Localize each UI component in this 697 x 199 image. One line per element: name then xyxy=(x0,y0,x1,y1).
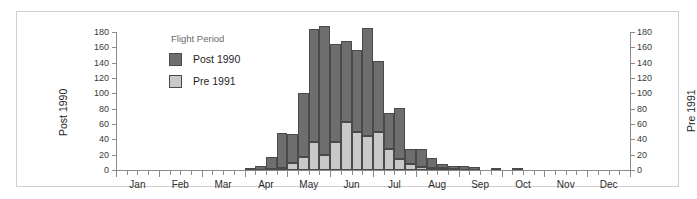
x-label-oct: Oct xyxy=(503,179,543,190)
x-label-aug: Aug xyxy=(417,179,457,190)
x-tick-34 xyxy=(480,171,481,175)
y-label-left-160: 160 xyxy=(81,43,109,52)
legend-label-pre-1991: Pre 1991 xyxy=(193,76,236,87)
x-tick-44 xyxy=(587,171,588,177)
x-tick-25 xyxy=(384,171,385,175)
bar-group xyxy=(245,168,256,170)
x-tick-15 xyxy=(277,171,278,175)
x-tick-32 xyxy=(459,171,460,177)
x-label-apr: Apr xyxy=(246,179,286,190)
bar-segment-post-1990 xyxy=(330,44,341,141)
bar-segment-pre-1991 xyxy=(330,142,341,170)
y-label-right-40: 40 xyxy=(637,135,665,144)
bar-segment-post-1990 xyxy=(352,50,363,131)
y-tick-right-180 xyxy=(631,32,635,33)
y-label-right-120: 120 xyxy=(637,74,665,83)
bar-segment-post-1990 xyxy=(469,167,480,170)
y-label-left-20: 20 xyxy=(81,151,109,160)
bar-group xyxy=(352,50,363,170)
bar-group xyxy=(266,157,277,170)
y-label-left-100: 100 xyxy=(81,89,109,98)
x-tick-7 xyxy=(191,171,192,175)
bar-segment-post-1990 xyxy=(394,108,405,159)
bar-group xyxy=(287,134,298,170)
bar-segment-pre-1991 xyxy=(319,155,330,170)
legend-item-post-1990: Post 1990 xyxy=(169,53,289,66)
y-tick-right-120 xyxy=(631,78,635,79)
bar-segment-post-1990 xyxy=(459,166,470,170)
x-tick-27 xyxy=(405,171,406,175)
x-tick-31 xyxy=(448,171,449,175)
x-tick-20 xyxy=(330,171,331,177)
bar-segment-pre-1991 xyxy=(277,168,288,170)
x-tick-4 xyxy=(159,171,160,177)
x-tick-48 xyxy=(630,171,631,177)
x-tick-28 xyxy=(416,171,417,177)
bar-group xyxy=(384,113,395,171)
bar-segment-post-1990 xyxy=(298,93,309,157)
legend-item-pre-1991: Pre 1991 xyxy=(169,75,289,88)
y-label-left-180: 180 xyxy=(81,28,109,37)
x-tick-2 xyxy=(137,171,138,175)
bar-segment-post-1990 xyxy=(427,158,438,168)
bar-segment-post-1990 xyxy=(287,134,298,163)
x-tick-36 xyxy=(502,171,503,177)
x-tick-38 xyxy=(523,171,524,175)
x-tick-16 xyxy=(287,171,288,177)
x-tick-11 xyxy=(234,171,235,175)
x-tick-30 xyxy=(437,171,438,175)
bar-group xyxy=(469,167,480,170)
x-tick-42 xyxy=(566,171,567,175)
x-tick-21 xyxy=(341,171,342,175)
bar-segment-post-1990 xyxy=(491,168,502,170)
bar-segment-post-1990 xyxy=(341,41,352,122)
y-tick-right-20 xyxy=(631,155,635,156)
legend-swatch-post-1990 xyxy=(169,53,182,66)
bar-segment-pre-1991 xyxy=(384,149,395,170)
y-label-right-180: 180 xyxy=(637,28,665,37)
bar-segment-pre-1991 xyxy=(427,168,438,170)
y-tick-right-60 xyxy=(631,124,635,125)
x-tick-26 xyxy=(394,171,395,175)
x-tick-46 xyxy=(609,171,610,175)
bar-group xyxy=(298,93,309,170)
bar-group xyxy=(512,168,523,170)
bar-group xyxy=(309,29,320,170)
right-axis-line xyxy=(630,32,631,171)
x-tick-39 xyxy=(534,171,535,175)
y-tick-right-40 xyxy=(631,139,635,140)
y-tick-right-80 xyxy=(631,109,635,110)
x-tick-14 xyxy=(266,171,267,175)
x-tick-29 xyxy=(427,171,428,175)
y-label-right-20: 20 xyxy=(637,151,665,160)
bar-segment-pre-1991 xyxy=(266,168,277,170)
x-tick-9 xyxy=(212,171,213,175)
y-tick-right-160 xyxy=(631,47,635,48)
y-tick-right-140 xyxy=(631,63,635,64)
bar-group xyxy=(319,26,330,170)
x-label-dec: Dec xyxy=(589,179,629,190)
y-label-left-0: 0 xyxy=(81,166,109,175)
x-tick-1 xyxy=(127,171,128,175)
x-tick-33 xyxy=(469,171,470,175)
y-label-left-60: 60 xyxy=(81,120,109,129)
bar-segment-pre-1991 xyxy=(362,136,373,171)
bar-group xyxy=(330,44,341,170)
bar-group xyxy=(394,108,405,170)
bar-segment-post-1990 xyxy=(319,26,330,155)
bar-segment-post-1990 xyxy=(255,166,266,170)
bar-segment-pre-1991 xyxy=(287,163,298,170)
bar-segment-post-1990 xyxy=(245,168,256,170)
x-label-nov: Nov xyxy=(546,179,586,190)
y-label-right-100: 100 xyxy=(637,89,665,98)
bar-segment-post-1990 xyxy=(362,28,373,135)
y-label-left-140: 140 xyxy=(81,59,109,68)
x-tick-24 xyxy=(373,171,374,177)
bar-segment-pre-1991 xyxy=(416,167,427,170)
x-tick-47 xyxy=(619,171,620,175)
y-label-right-60: 60 xyxy=(637,120,665,129)
x-tick-3 xyxy=(148,171,149,175)
x-tick-18 xyxy=(309,171,310,175)
bar-segment-pre-1991 xyxy=(405,164,416,170)
right-axis-title: Pre 1991 xyxy=(685,89,697,132)
